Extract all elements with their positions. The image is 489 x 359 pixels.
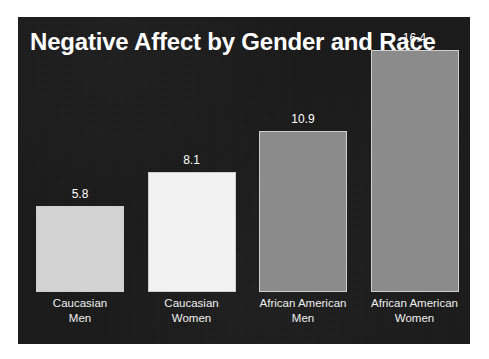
bar-group-caucasian-men[interactable]: 5.8 Caucasian Men bbox=[33, 17, 127, 292]
bar-category-line-1: Caucasian bbox=[27, 296, 133, 311]
bar-category-label: Caucasian Men bbox=[27, 296, 133, 326]
bar-category-label: African American Men bbox=[250, 296, 356, 326]
bar-group-african-american-men[interactable]: 10.9 African American Men bbox=[256, 17, 350, 292]
chart-figure: Negative Affect by Gender and Race 5.8 C… bbox=[0, 0, 489, 359]
bar-rect[interactable] bbox=[148, 172, 236, 292]
plot-area: 5.8 Caucasian Men 8.1 Caucasian Women 10… bbox=[18, 17, 470, 344]
bar-category-label: Caucasian Women bbox=[139, 296, 245, 326]
chart-panel: Negative Affect by Gender and Race 5.8 C… bbox=[18, 17, 470, 344]
bar-category-line-2: Women bbox=[362, 311, 468, 326]
bar-category-line-2: Men bbox=[27, 311, 133, 326]
bar-category-line-2: Men bbox=[250, 311, 356, 326]
bar-category-line-1: Caucasian bbox=[139, 296, 245, 311]
bar-category-line-1: African American bbox=[362, 296, 468, 311]
bar-value-label: 10.9 bbox=[256, 112, 350, 126]
bar-value-label: 16.4 bbox=[368, 31, 462, 45]
bar-group-caucasian-women[interactable]: 8.1 Caucasian Women bbox=[145, 17, 239, 292]
bar-rect[interactable] bbox=[36, 206, 124, 292]
bar-category-label: African American Women bbox=[362, 296, 468, 326]
bar-value-label: 8.1 bbox=[145, 153, 239, 167]
bar-rect[interactable] bbox=[259, 131, 347, 292]
bar-group-african-american-women[interactable]: 16.4 African American Women bbox=[368, 17, 462, 292]
bar-category-line-1: African American bbox=[250, 296, 356, 311]
bar-rect[interactable] bbox=[371, 50, 459, 292]
bar-value-label: 5.8 bbox=[33, 187, 127, 201]
bar-category-line-2: Women bbox=[139, 311, 245, 326]
